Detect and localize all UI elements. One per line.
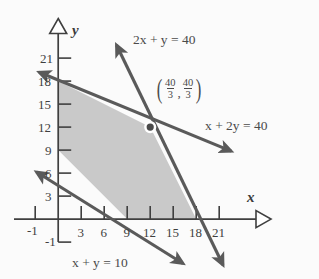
x-axis-arrowhead-icon — [256, 211, 271, 228]
x-tick-label-15: 15 — [166, 226, 179, 239]
x-tick-label-neg1: -1 — [27, 224, 38, 237]
fraction-y: 40 3 — [182, 77, 195, 100]
y-tick-label-12: 12 — [38, 121, 51, 134]
y-tick-label-18: 18 — [38, 75, 51, 88]
y-tick-label-15: 15 — [38, 98, 51, 111]
paren-open: ( — [157, 78, 163, 100]
x-tick-label-12: 12 — [143, 226, 156, 239]
x-tick-label-21: 21 — [212, 226, 225, 239]
y-tick-label-9: 9 — [45, 144, 52, 157]
equation-label-x-plus-2y: x + 2y = 40 — [205, 119, 267, 133]
y-axis-label: y — [72, 23, 79, 38]
y-tick-label-21: 21 — [40, 52, 53, 65]
figure-container: y x 21 18 15 12 9 6 3 -1 -1 3 6 9 12 15 … — [0, 0, 319, 279]
paren-close: ) — [196, 78, 202, 100]
x-axis-label: x — [247, 190, 255, 205]
fraction-x-denominator: 3 — [167, 88, 174, 100]
intersection-coordinate-label: ( 40 3 , 40 3 ) — [155, 77, 203, 100]
y-axis-arrowhead-icon — [50, 19, 67, 34]
coordinate-comma: , — [178, 86, 181, 100]
fraction-y-denominator: 3 — [184, 88, 191, 100]
intersection-point-dot — [147, 124, 154, 131]
y-tick-label-6: 6 — [45, 167, 52, 180]
fraction-y-numerator: 40 — [182, 77, 195, 88]
x-tick-label-3: 3 — [78, 226, 85, 239]
fraction-x: 40 3 — [164, 77, 177, 100]
y-tick-label-3: 3 — [45, 190, 52, 203]
equation-label-x-plus-y: x + y = 10 — [72, 256, 128, 270]
x-tick-label-6: 6 — [101, 226, 108, 239]
y-tick-label-neg1: -1 — [45, 235, 56, 248]
x-tick-label-18: 18 — [189, 226, 202, 239]
fraction-x-numerator: 40 — [164, 77, 177, 88]
x-tick-label-9: 9 — [124, 226, 131, 239]
equation-label-2x-plus-y: 2x + y = 40 — [133, 33, 195, 47]
